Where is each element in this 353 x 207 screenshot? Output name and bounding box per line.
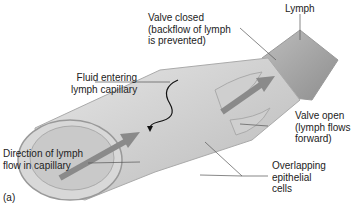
panel-label: (a) [3,192,15,204]
label-fluid-entering: Fluid entering lymph capillary [71,72,137,95]
label-valve-open: Valve open (lymph flows forward) [295,110,351,145]
label-overlapping: Overlapping epithelial cells [272,160,326,195]
label-direction: Direction of lymph flow in capillary [3,148,83,171]
label-valve-closed: Valve closed (backflow of lymph is preve… [148,12,231,47]
label-lymph: Lymph [285,3,315,15]
